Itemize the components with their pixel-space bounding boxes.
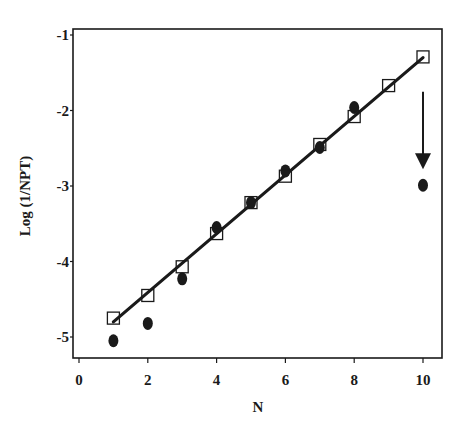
x-tick-label: 10	[416, 372, 431, 388]
regression-line	[113, 58, 423, 322]
data-point-circle	[108, 334, 118, 347]
x-tick-label: 4	[213, 372, 221, 388]
data-point-circle	[143, 317, 153, 330]
y-axis-title: Log (1/NPT)	[17, 156, 34, 236]
data-point-circle	[177, 272, 187, 285]
x-tick-label: 2	[144, 372, 152, 388]
y-tick-label: -2	[57, 103, 70, 119]
data-point-circle	[246, 196, 256, 209]
x-axis: 0246810	[75, 358, 430, 388]
y-tick-label: -1	[57, 27, 70, 43]
fit-line	[113, 58, 423, 322]
arrow-annotation	[415, 92, 431, 170]
data-point-circle	[418, 179, 428, 192]
x-tick-label: 0	[75, 372, 83, 388]
x-tick-label: 6	[282, 372, 290, 388]
chart: 0246810 -1-2-3-4-5 N Log (1/NPT)	[0, 0, 468, 427]
data-point-circle	[315, 141, 325, 154]
x-tick-label: 8	[350, 372, 358, 388]
y-tick-label: -5	[57, 329, 70, 345]
data-point-circle	[280, 164, 290, 177]
x-axis-title: N	[253, 399, 264, 415]
y-tick-label: -3	[57, 178, 70, 194]
arrow-head-icon	[415, 153, 431, 169]
data-point-circle	[349, 101, 359, 114]
series-filled-circles	[108, 101, 428, 347]
y-tick-label: -4	[57, 254, 70, 270]
y-axis: -1-2-3-4-5	[57, 27, 74, 345]
